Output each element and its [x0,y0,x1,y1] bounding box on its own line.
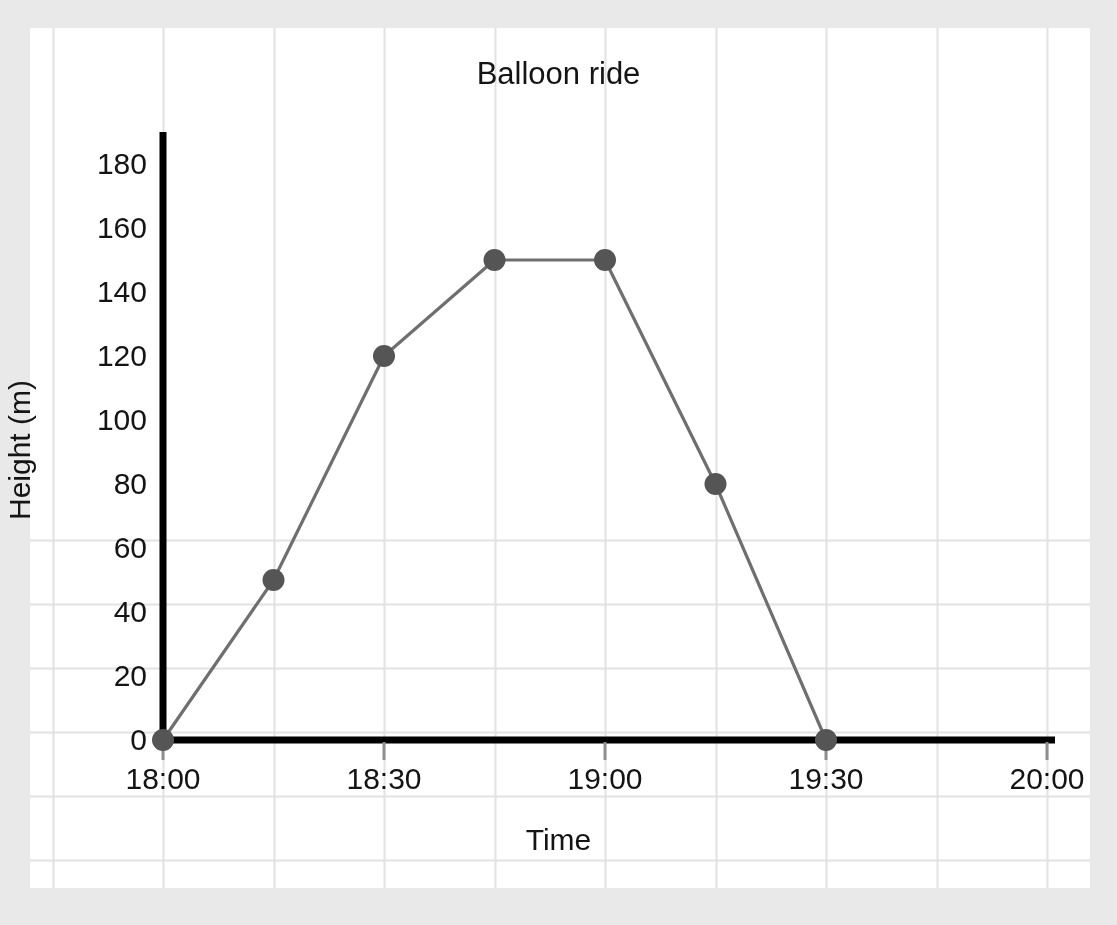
x-axis-tick-label: 20:00 [1009,762,1084,796]
data-point-marker [373,345,395,367]
screenshot-page: 02040608010012014016018018:0018:3019:001… [0,0,1117,925]
x-axis-tick-label: 19:30 [788,762,863,796]
y-axis-tick-label: 0 [130,723,147,757]
y-axis-tick-label: 40 [114,595,147,629]
data-point-marker [152,729,174,751]
data-series-balloon-ride [163,260,826,740]
y-axis-tick-label: 120 [97,339,147,373]
data-point-marker [484,249,506,271]
data-point-marker [594,249,616,271]
y-axis-tick-label: 160 [97,211,147,245]
x-axis-title: Time [0,823,1117,857]
data-point-marker [815,729,837,751]
chart-title: Balloon ride [0,56,1117,92]
y-axis-title: Height (m) [3,380,37,520]
y-axis-tick-label: 80 [114,467,147,501]
y-axis-tick-label: 140 [97,275,147,309]
x-axis-tick-label: 19:00 [567,762,642,796]
data-point-marker [263,569,285,591]
y-axis-tick-label: 100 [97,403,147,437]
series-line [163,260,826,740]
data-point-markers [152,249,837,751]
axes-group [163,132,1055,760]
y-axis-tick-label: 60 [114,531,147,565]
data-point-marker [705,473,727,495]
x-axis-tick-label: 18:00 [125,762,200,796]
y-axis-tick-label: 180 [97,147,147,181]
x-axis-tick-label: 18:30 [346,762,421,796]
y-axis-tick-label: 20 [114,659,147,693]
